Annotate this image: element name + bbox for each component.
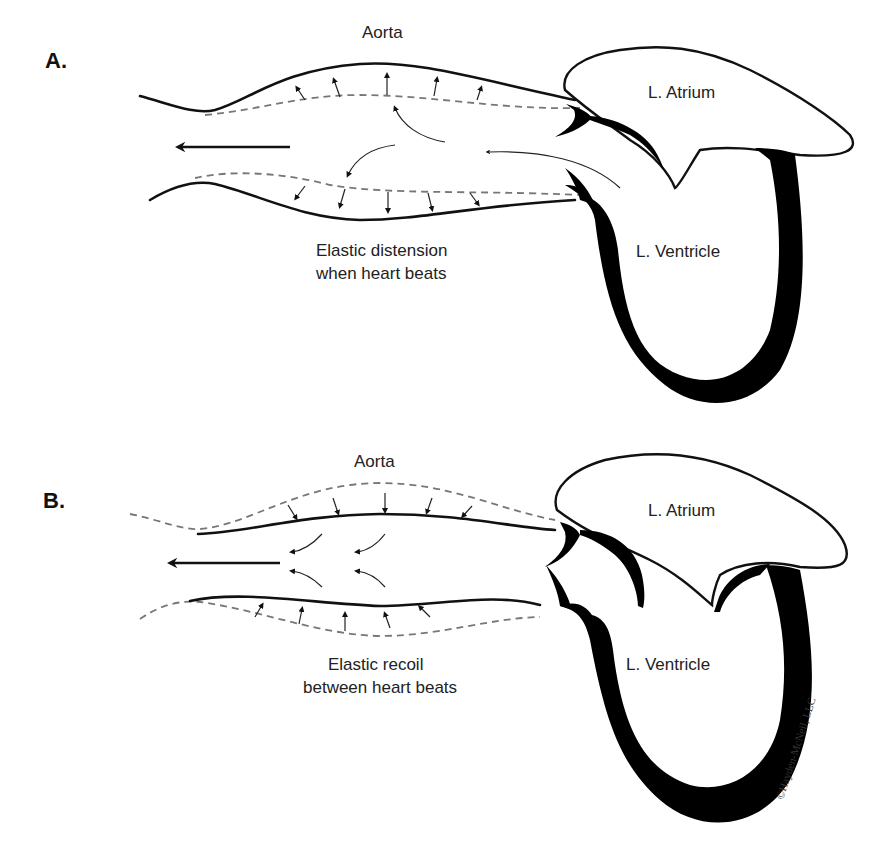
panel-a: A. Aorta — [45, 23, 853, 403]
aorta-lower-resting-wall — [195, 173, 580, 195]
panel-a-aorta-label: Aorta — [362, 23, 403, 42]
panel-b-label: B. — [43, 488, 65, 513]
left-atrium-shape — [564, 47, 853, 188]
panel-a-caption-line1: Elastic distension — [316, 241, 447, 260]
aorta-upper-resting-wall — [205, 95, 580, 115]
panel-a-atrium-label: L. Atrium — [648, 83, 715, 102]
panel-a-label: A. — [45, 48, 67, 73]
panel-b-caption-line2: between heart beats — [303, 678, 457, 697]
panel-b-caption-line1: Elastic recoil — [328, 655, 423, 674]
inward-arrows-lower — [255, 605, 430, 631]
left-atrium-shape — [556, 454, 847, 605]
aortic-valve-lower-leaflet — [546, 565, 572, 610]
panel-a-caption-line2: when heart beats — [315, 264, 446, 283]
ejection-flow-arrow — [488, 152, 620, 188]
aorta-elasticity-diagram: A. Aorta — [0, 0, 882, 857]
aorta-lower-distended-wall — [140, 602, 540, 636]
left-ventricle-wall — [565, 148, 803, 403]
panel-a-ventricle-label: L. Ventricle — [636, 242, 720, 261]
aorta-lower-wall — [190, 597, 540, 606]
aorta-upper-wall — [140, 63, 575, 111]
panel-b-aorta-label: Aorta — [354, 452, 395, 471]
recoil-flow-arrows — [292, 534, 385, 587]
panel-b-ventricle-label: L. Ventricle — [626, 655, 710, 674]
aorta-upper-wall — [198, 514, 555, 534]
left-ventricle-wall — [560, 565, 812, 823]
panel-b-atrium-label: L. Atrium — [648, 501, 715, 520]
flow-curve-up — [395, 108, 445, 142]
panel-b: B. Aorta — [43, 452, 847, 823]
flow-curve-down — [348, 145, 395, 175]
